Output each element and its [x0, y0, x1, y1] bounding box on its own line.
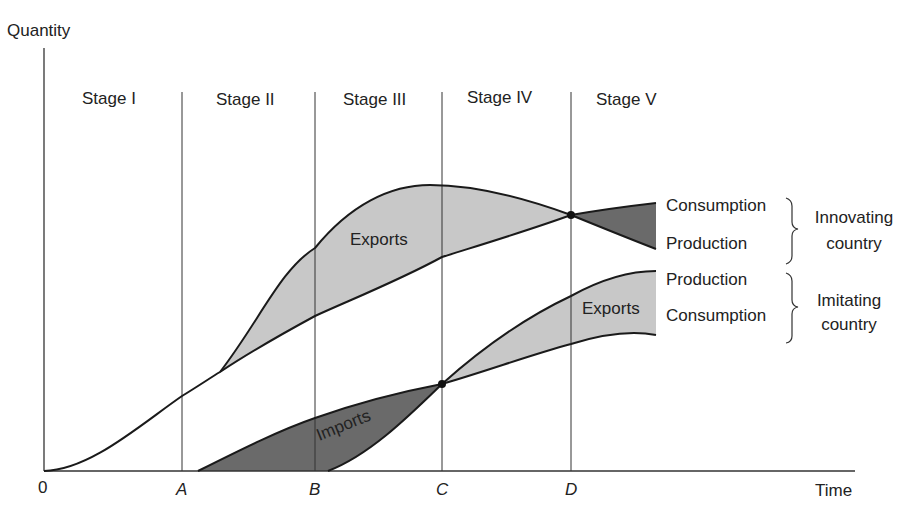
marker-b: B	[309, 481, 320, 498]
innovating-brace	[786, 198, 798, 264]
life-cycle-diagram	[0, 0, 912, 520]
stage-5-label: Stage V	[596, 91, 657, 108]
innovating-production-label: Production	[666, 235, 747, 252]
innovating-imports-region	[571, 203, 656, 249]
innovating-group-line2: country	[801, 235, 907, 252]
imitating-production-label: Production	[666, 271, 747, 288]
innovating-consumption-label: Consumption	[666, 197, 766, 214]
y-axis-label: Quantity	[7, 22, 70, 39]
imitating-exports-region	[442, 271, 656, 384]
imitating-group-line2: country	[801, 316, 897, 333]
origin-label: 0	[38, 479, 47, 496]
marker-a: A	[176, 481, 187, 498]
stage-3-label: Stage III	[343, 91, 406, 108]
stage-2-label: Stage II	[216, 91, 275, 108]
innovating-exports-label: Exports	[350, 231, 408, 248]
marker-d: D	[565, 481, 577, 498]
imitating-consumption-label: Consumption	[666, 307, 766, 324]
imitating-group-line1: Imitating	[801, 292, 897, 309]
stage-1-label: Stage I	[82, 90, 136, 107]
x-axis-label: Time	[815, 482, 852, 499]
stage-4-label: Stage IV	[467, 89, 532, 106]
imitating-brace	[786, 273, 798, 343]
intersection-c	[438, 380, 446, 388]
marker-c: C	[436, 481, 448, 498]
imitating-exports-label: Exports	[582, 300, 640, 317]
intersection-d	[567, 211, 575, 219]
innovating-group-line1: Innovating	[801, 209, 907, 226]
